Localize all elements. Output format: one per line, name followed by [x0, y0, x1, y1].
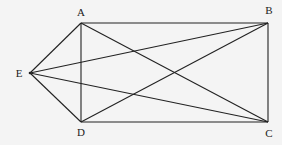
label-c: C [265, 127, 272, 139]
label-a: A [77, 6, 85, 18]
label-e: E [16, 67, 23, 79]
segment-ec [30, 73, 268, 122]
label-d: D [77, 126, 85, 138]
label-b: B [265, 4, 272, 16]
segments [30, 23, 268, 122]
segment-eb [30, 23, 268, 73]
vertex-e-dot [29, 72, 32, 75]
segment-ea [30, 23, 81, 73]
labels: A B C D E [16, 4, 273, 139]
segment-ed [30, 73, 81, 122]
vertex-dots [29, 72, 32, 75]
geometry-diagram: A B C D E [0, 0, 282, 145]
